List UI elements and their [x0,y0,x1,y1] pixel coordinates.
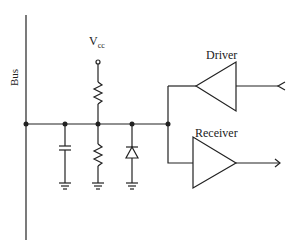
receiver-label: Receiver [195,126,238,141]
schematic-svg [0,0,297,252]
tap-wire [168,86,193,163]
driver-label: Driver [206,48,237,63]
clamp-diode [126,124,138,189]
receiver-buffer [193,137,280,188]
bus-label: Bus [8,69,20,86]
vcc-label: Vcc [89,34,105,50]
driver-buffer [196,62,285,111]
pull-down-resistor [92,124,104,189]
bus-capacitor [59,124,71,189]
circuit-diagram: Bus Vcc Driver Receiver [0,0,297,252]
pull-up-resistor [94,60,102,124]
